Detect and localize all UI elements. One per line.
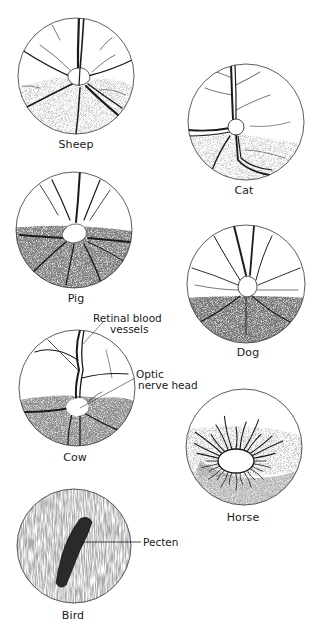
bird-label: Bird (62, 610, 84, 622)
optic-nerve-annotation: Optic nerve head (136, 369, 198, 391)
dog-fundus (185, 225, 307, 345)
pig-label: Pig (68, 293, 85, 305)
cow-fundus (19, 322, 140, 450)
cat-fundus (185, 64, 305, 185)
optic-nerve-label-line2: nerve head (136, 380, 198, 391)
cat-label: Cat (234, 185, 253, 197)
retinal-vessels-annotation: Retinal blood vessels (93, 313, 162, 335)
dog-label: Dog (237, 347, 259, 359)
retinal-vessels-label-line2: vessels (93, 324, 162, 335)
sheep-label: Sheep (59, 139, 94, 151)
bird-fundus (17, 489, 141, 603)
pecten-annotation: Pecten (143, 537, 178, 548)
horse-label: Horse (227, 512, 260, 524)
pig-fundus (10, 170, 140, 295)
horse-fundus (186, 389, 302, 510)
fundus-comparison-figure: Sheep Cat Pig Dog Cow Horse Bird Retinal… (0, 0, 317, 625)
sheep-fundus (10, 15, 140, 140)
cow-label: Cow (63, 452, 87, 464)
